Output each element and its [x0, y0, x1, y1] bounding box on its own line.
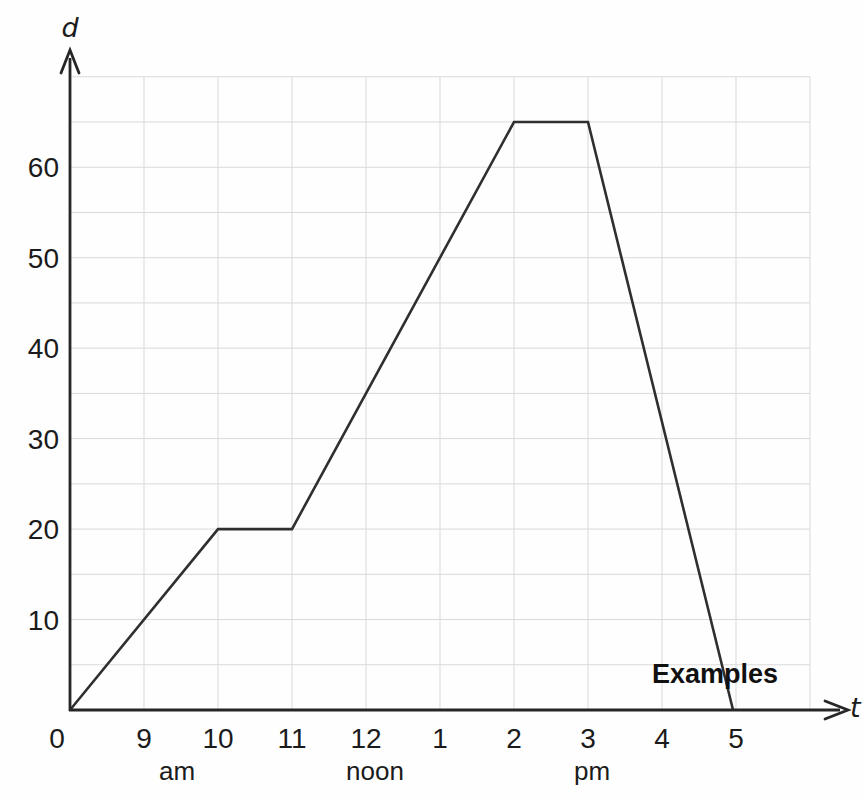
journey-line [70, 122, 733, 710]
y-tick-label: 50 [28, 243, 59, 274]
y-tick-label: 20 [28, 514, 59, 545]
y-tick-label: 60 [28, 152, 59, 183]
x-tick-label: 12 [350, 723, 381, 754]
period-label-am: am [159, 758, 195, 784]
y-tick-label: 10 [28, 605, 59, 636]
x-tick-label: 2 [506, 723, 522, 754]
period-label-pm: pm [574, 758, 610, 784]
x-tick-label: 10 [202, 723, 233, 754]
x-tick-label: 9 [136, 723, 152, 754]
x-tick-label: 11 [277, 723, 306, 754]
y-tick-label: 30 [28, 424, 59, 455]
distance-time-chart-page: 102030405060910111212345 d t 0 am noon p… [0, 0, 864, 800]
origin-tick-label: 0 [49, 725, 65, 753]
y-axis-label: d [61, 14, 78, 41]
examples-annotation: Examples [652, 661, 778, 688]
y-tick-label: 40 [28, 333, 59, 364]
x-tick-label: 3 [580, 723, 596, 754]
x-tick-label: 4 [654, 723, 670, 754]
x-tick-label: 1 [432, 723, 448, 754]
x-axis-label: t [850, 694, 861, 721]
period-label-noon: noon [346, 758, 404, 784]
x-tick-label: 5 [728, 723, 744, 754]
